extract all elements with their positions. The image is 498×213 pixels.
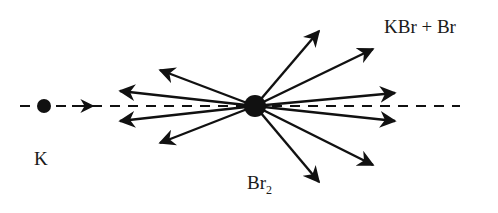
- scatter-arrow: [255, 31, 319, 106]
- products-label: KBr + Br: [384, 16, 456, 38]
- scatter-arrow: [255, 106, 373, 165]
- k-label: K: [34, 148, 48, 170]
- scatter-arrow: [255, 106, 395, 121]
- k-atom-dot: [37, 99, 51, 113]
- br2-molecule-dot: [244, 95, 266, 117]
- diagram: K Br2 KBr + Br: [0, 0, 498, 213]
- scatter-arrow: [255, 106, 319, 182]
- br2-label: Br2: [247, 172, 272, 198]
